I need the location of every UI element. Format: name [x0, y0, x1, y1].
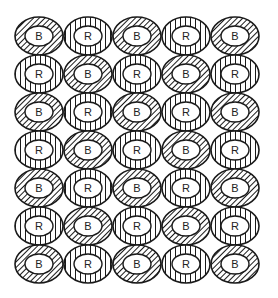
cell-b: B: [162, 207, 210, 245]
cell-label: R: [231, 220, 239, 232]
cell-b: B: [15, 93, 63, 131]
cell-label: R: [84, 182, 92, 194]
cell-label: R: [84, 30, 92, 42]
cell-b: B: [113, 245, 161, 283]
cell-label: R: [84, 106, 92, 118]
cell-label: R: [35, 68, 43, 80]
cell-b: B: [15, 17, 63, 55]
cell-b: B: [64, 55, 112, 93]
cell-label: R: [231, 144, 239, 156]
cell-r: R: [15, 131, 63, 169]
cell-b: B: [162, 131, 210, 169]
cell-r: R: [64, 17, 112, 55]
cell-r: R: [162, 93, 210, 131]
cell-b: B: [113, 169, 161, 207]
cell-label: B: [231, 182, 238, 194]
cell-label: R: [182, 258, 190, 270]
cell-r: R: [211, 55, 259, 93]
cell-label: R: [35, 144, 43, 156]
cell-label: B: [35, 30, 42, 42]
cell-label: B: [133, 30, 140, 42]
cell-r: R: [162, 17, 210, 55]
cell-label: B: [182, 144, 189, 156]
cell-label: B: [182, 220, 189, 232]
cell-label: R: [182, 106, 190, 118]
cell-r: R: [113, 55, 161, 93]
cell-grid-diagram: BRBRBRBRBRBRBRBRBRBRBRBRBRBRBRBRBRB: [0, 0, 278, 298]
cell-b: B: [211, 245, 259, 283]
cell-b: B: [113, 93, 161, 131]
cell-label: B: [35, 106, 42, 118]
cell-label: R: [133, 68, 141, 80]
cell-label: R: [231, 68, 239, 80]
cell-b: B: [15, 169, 63, 207]
cell-b: B: [162, 55, 210, 93]
cell-label: B: [133, 106, 140, 118]
cell-label: B: [133, 182, 140, 194]
cell-b: B: [64, 131, 112, 169]
cell-b: B: [211, 169, 259, 207]
cell-label: R: [133, 144, 141, 156]
cell-label: B: [231, 106, 238, 118]
cell-r: R: [162, 169, 210, 207]
cell-r: R: [15, 55, 63, 93]
cell-label: B: [133, 258, 140, 270]
cell-label: R: [182, 30, 190, 42]
cell-b: B: [64, 207, 112, 245]
cell-label: B: [35, 258, 42, 270]
cell-r: R: [162, 245, 210, 283]
cell-r: R: [113, 207, 161, 245]
cell-label: B: [84, 220, 91, 232]
cell-label: R: [182, 182, 190, 194]
cell-label: B: [35, 182, 42, 194]
cell-r: R: [15, 207, 63, 245]
cell-r: R: [113, 131, 161, 169]
cell-r: R: [64, 245, 112, 283]
cell-label: B: [231, 258, 238, 270]
cell-b: B: [211, 93, 259, 131]
cell-label: B: [84, 144, 91, 156]
cell-b: B: [211, 17, 259, 55]
cell-r: R: [64, 93, 112, 131]
cell-label: R: [84, 258, 92, 270]
cell-label: B: [182, 68, 189, 80]
cell-r: R: [64, 169, 112, 207]
cell-b: B: [15, 245, 63, 283]
cell-r: R: [211, 131, 259, 169]
cell-label: B: [231, 30, 238, 42]
cell-r: R: [211, 207, 259, 245]
cell-label: R: [133, 220, 141, 232]
cell-b: B: [113, 17, 161, 55]
cell-label: R: [35, 220, 43, 232]
cell-label: B: [84, 68, 91, 80]
